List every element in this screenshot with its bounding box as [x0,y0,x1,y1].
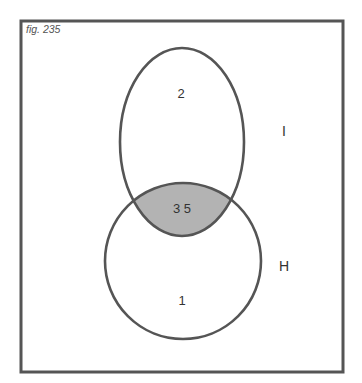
set-i-label: I [282,123,286,139]
region-i-only-label: 2 [177,86,184,101]
figure-caption: fig. 235 [26,23,61,35]
venn-figure: fig. 235 2 3 5 1 I H [0,0,362,383]
set-h-label: H [279,258,289,274]
intersection-label: 3 5 [173,201,191,216]
region-h-only-label: 1 [178,293,185,308]
